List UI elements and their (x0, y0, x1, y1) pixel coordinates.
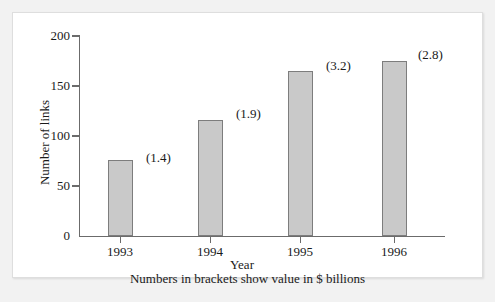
x-tick-mark-1996 (394, 237, 395, 243)
y-tick-mark-50 (72, 185, 79, 186)
x-tick-mark-1995 (300, 237, 301, 243)
bar-1995[interactable] (288, 71, 313, 236)
x-tick-mark-1994 (210, 237, 211, 243)
x-tick-mark-1993 (120, 237, 121, 243)
bar-1996[interactable] (382, 61, 407, 236)
y-tick-label-200: 200 (36, 29, 70, 42)
figure-root: 200 150 100 50 0 (1.4) (1.9) (3.2) (2.8)… (0, 0, 495, 302)
bar-1994[interactable] (198, 120, 223, 236)
bar-annotation-1996: (2.8) (418, 48, 443, 61)
y-axis-title: Number of links (38, 78, 51, 208)
plot-area: 200 150 100 50 0 (1.4) (1.9) (3.2) (2.8)… (0, 0, 495, 302)
x-axis-title: Year (182, 258, 302, 271)
x-tick-label-1993: 1993 (90, 245, 150, 258)
y-tick-mark-200 (72, 35, 79, 36)
y-axis-line (79, 35, 80, 237)
y-tick-mark-100 (72, 135, 79, 136)
bar-annotation-1994: (1.9) (236, 107, 261, 120)
x-tick-label-1996: 1996 (364, 245, 424, 258)
x-tick-label-1995: 1995 (270, 245, 330, 258)
bar-1993[interactable] (108, 160, 133, 236)
bar-annotation-1993: (1.4) (146, 151, 171, 164)
y-tick-mark-150 (72, 85, 79, 86)
x-axis-line (79, 236, 445, 237)
y-tick-label-0: 0 (36, 229, 70, 242)
chart-footnote: Numbers in brackets show value in $ bill… (0, 272, 495, 285)
bar-annotation-1995: (3.2) (326, 59, 351, 72)
